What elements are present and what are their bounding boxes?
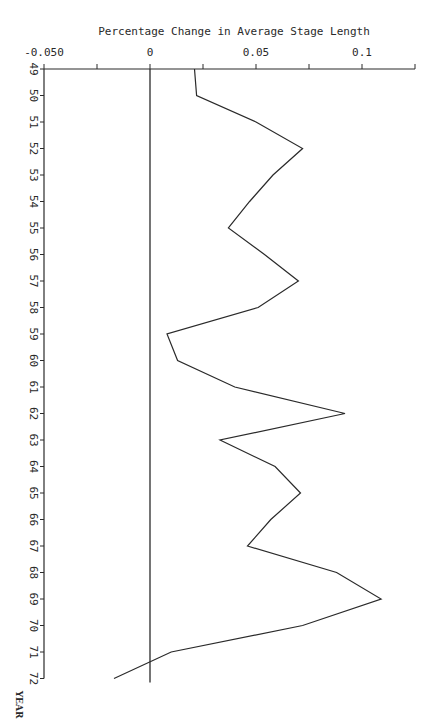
y-tick-label: 58 — [27, 301, 40, 314]
y-tick-label: 65 — [27, 486, 40, 499]
y-tick-label: 64 — [27, 460, 40, 474]
y-tick-label: 63 — [27, 433, 40, 446]
y-tick-label: 54 — [27, 195, 40, 209]
data-series-line — [114, 69, 381, 679]
y-tick-label: 68 — [27, 566, 40, 579]
y-tick-label: 71 — [27, 645, 40, 658]
x-tick-label: 0.05 — [243, 46, 270, 59]
y-tick-label: 53 — [27, 168, 40, 181]
y-tick-label: 55 — [27, 221, 40, 234]
y-tick-label: 49 — [27, 62, 40, 75]
y-tick-label: 52 — [27, 142, 40, 155]
x-tick-label: 0.1 — [352, 46, 372, 59]
y-tick-label: 62 — [27, 407, 40, 420]
x-tick-label: -0.050 — [24, 46, 64, 59]
y-tick-label: 67 — [27, 539, 40, 552]
y-tick-label: 69 — [27, 592, 40, 605]
chart: Percentage Change in Average Stage Lengt… — [0, 0, 435, 721]
x-axis: -0.05000.050.1 — [24, 46, 415, 69]
y-axis: 4950515253545556575859606162636465666768… — [27, 62, 45, 685]
chart-title: Percentage Change in Average Stage Lengt… — [98, 25, 370, 38]
y-axis-label: YEAR — [14, 690, 24, 719]
y-tick-label: 60 — [27, 354, 40, 367]
y-tick-label: 51 — [27, 115, 40, 128]
x-tick-label: 0 — [147, 46, 154, 59]
y-tick-label: 61 — [27, 380, 40, 393]
y-tick-label: 72 — [27, 672, 40, 685]
y-tick-label: 56 — [27, 248, 40, 261]
y-tick-label: 57 — [27, 274, 40, 287]
y-tick-label: 70 — [27, 619, 40, 632]
y-tick-label: 50 — [27, 89, 40, 102]
y-tick-label: 66 — [27, 513, 40, 526]
y-tick-label: 59 — [27, 327, 40, 340]
